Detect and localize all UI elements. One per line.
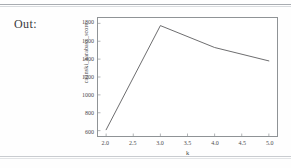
x-axis-label: k (97, 149, 278, 156)
chart-figure: calinski_harabasz_score 6008001000120014… (62, 10, 286, 158)
axis-tick-marks (98, 23, 269, 136)
y-tick-label: 600 (64, 129, 94, 135)
y-axis-tick-labels: 60080010001200140016001800 (62, 17, 94, 137)
y-tick-label: 1400 (64, 56, 94, 62)
x-tick-label: 2.0 (92, 140, 118, 146)
x-tick-label: 3.0 (147, 140, 173, 146)
x-tick-label: 3.5 (175, 140, 201, 146)
x-tick-label: 5.0 (257, 140, 283, 146)
x-tick-label: 4.5 (229, 140, 255, 146)
x-tick-label: 4.0 (202, 140, 228, 146)
y-tick-label: 800 (64, 110, 94, 116)
plot-area (97, 17, 278, 137)
page-rule-top (0, 4, 291, 5)
line-plot-svg (98, 18, 277, 136)
x-tick-label: 2.5 (120, 140, 146, 146)
page-rule-top-secondary (0, 6, 291, 7)
output-prompt-label: Out: (14, 17, 37, 32)
y-tick-label: 1000 (64, 92, 94, 98)
page-rule-bottom-secondary (0, 158, 291, 159)
document-page: Out: calinski_harabasz_score 60080010001… (0, 0, 291, 168)
y-tick-label: 1600 (64, 38, 94, 44)
y-tick-label: 1200 (64, 74, 94, 80)
data-series-line (106, 26, 269, 130)
y-tick-label: 1800 (64, 19, 94, 25)
